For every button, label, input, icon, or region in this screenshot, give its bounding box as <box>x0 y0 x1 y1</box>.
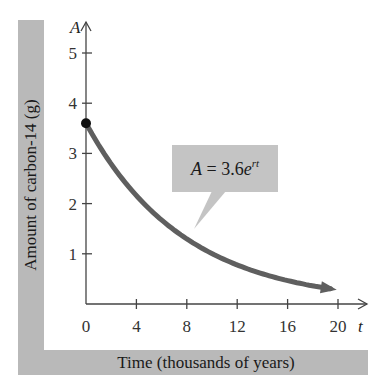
initial-point-marker <box>81 118 91 128</box>
plot-area: 12345048121620At <box>0 0 386 390</box>
x-tick-label: 16 <box>279 317 296 336</box>
y-tick-label: 2 <box>69 195 78 214</box>
x-tick-label: 12 <box>229 317 246 336</box>
curve-arrowhead-icon <box>320 281 337 293</box>
equation-lhs: A <box>191 159 202 179</box>
x-tick-label: 20 <box>330 317 347 336</box>
y-tick-label: 3 <box>69 144 78 163</box>
x-tick-label: 0 <box>82 317 91 336</box>
y-axis-variable: A <box>69 18 81 37</box>
equation-base: e <box>244 159 252 179</box>
equation-exponent: rt <box>252 157 259 169</box>
callout-pointer <box>194 191 226 229</box>
equation-coefficient: = 3.6 <box>202 159 244 179</box>
x-axis-variable: t <box>358 317 364 336</box>
equation-callout: A = 3.6ert <box>172 145 278 192</box>
y-tick-label: 4 <box>69 94 78 113</box>
y-tick-label: 1 <box>69 245 78 264</box>
y-tick-label: 5 <box>69 44 78 63</box>
x-tick-label: 4 <box>132 317 141 336</box>
x-tick-label: 8 <box>183 317 192 336</box>
